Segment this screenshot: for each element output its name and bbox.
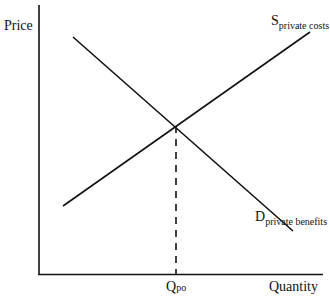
supply-curve-label: Sprivate costs: [271, 14, 329, 28]
supply-label-sub: private costs: [279, 20, 329, 31]
quantity-label-sub: po: [176, 282, 186, 293]
y-axis-label: Price: [4, 19, 33, 33]
x-axis-label: Quantity: [269, 280, 318, 294]
demand-label-sub: private benefits: [265, 216, 327, 227]
demand-curve: [73, 37, 293, 231]
supply-demand-diagram: [0, 0, 330, 303]
demand-curve-label: Dprivate benefits: [255, 210, 327, 224]
quantity-label-main: Q: [166, 279, 176, 294]
equilibrium-quantity-label: Qpo: [166, 280, 186, 294]
supply-curve: [63, 32, 310, 206]
demand-label-main: D: [255, 209, 265, 224]
supply-label-main: S: [271, 13, 279, 28]
